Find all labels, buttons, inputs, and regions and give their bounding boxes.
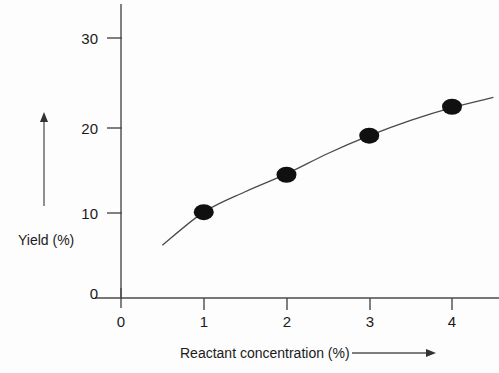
y-axis-title: Yield (%) (18, 232, 74, 248)
y-tick-label-10: 10 (81, 205, 98, 222)
plot-background (0, 0, 499, 373)
x-tick-label-4: 4 (448, 313, 456, 330)
x-tick-label-2: 2 (283, 313, 291, 330)
data-point-1 (194, 204, 214, 220)
x-tick-label-1: 1 (200, 313, 208, 330)
y-tick-label-20: 20 (81, 120, 98, 137)
x-tick-label-3: 3 (366, 313, 374, 330)
chart-figure: 30 20 10 0 0 1 2 3 4 Yield (%) Reactant (0, 0, 499, 373)
y-tick-label-0: 0 (90, 285, 98, 302)
data-point-4 (442, 99, 462, 115)
data-point-2 (277, 167, 297, 183)
scatter-plot-canvas: 30 20 10 0 0 1 2 3 4 Yield (%) Reactant (0, 0, 499, 373)
y-tick-label-30: 30 (81, 30, 98, 47)
data-point-3 (359, 128, 379, 144)
x-axis-title: Reactant concentration (%) (180, 345, 350, 361)
x-tick-label-0: 0 (117, 313, 125, 330)
